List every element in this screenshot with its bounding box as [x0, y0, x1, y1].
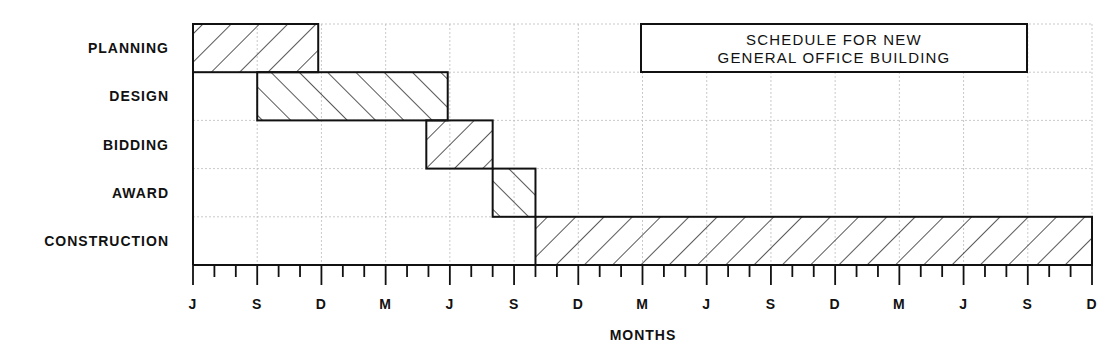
chart-title-line-2: GENERAL OFFICE BUILDING — [718, 49, 951, 66]
task-label-design: DESIGN — [109, 88, 169, 104]
task-labels: PLANNINGDESIGNBIDDINGAWARDCONSTRUCTION — [44, 40, 169, 249]
x-tick-label: J — [445, 296, 454, 312]
x-axis: JSDMJSDMJSDMJSD — [189, 265, 1098, 312]
task-bar-planning — [193, 24, 318, 72]
x-tick-label: J — [702, 296, 711, 312]
task-label-award: AWARD — [112, 185, 169, 201]
task-label-planning: PLANNING — [88, 40, 169, 56]
chart-title-box: SCHEDULE FOR NEW GENERAL OFFICE BUILDING — [641, 24, 1027, 72]
x-tick-label: D — [316, 296, 327, 312]
task-bar-design — [257, 72, 448, 120]
x-tick-label: S — [766, 296, 776, 312]
x-tick-label: D — [573, 296, 584, 312]
x-tick-label: J — [189, 296, 198, 312]
task-bar-bidding — [426, 120, 492, 168]
x-tick-label: J — [959, 296, 968, 312]
chart-title-line-1: SCHEDULE FOR NEW — [746, 31, 922, 48]
x-axis-label: MONTHS — [610, 327, 677, 343]
task-label-construction: CONSTRUCTION — [44, 233, 169, 249]
gantt-chart: JSDMJSDMJSDMJSD PLANNINGDESIGNBIDDINGAWA… — [0, 0, 1114, 350]
task-bar-construction — [535, 217, 1092, 265]
task-bar-award — [493, 169, 536, 217]
x-tick-label: S — [1023, 296, 1033, 312]
x-tick-label: D — [830, 296, 841, 312]
task-label-bidding: BIDDING — [103, 137, 169, 153]
x-tick-label: D — [1086, 296, 1097, 312]
x-tick-label: S — [252, 296, 262, 312]
x-tick-label: M — [636, 296, 649, 312]
x-tick-label: M — [379, 296, 392, 312]
x-tick-label: S — [509, 296, 519, 312]
x-tick-label: M — [893, 296, 906, 312]
